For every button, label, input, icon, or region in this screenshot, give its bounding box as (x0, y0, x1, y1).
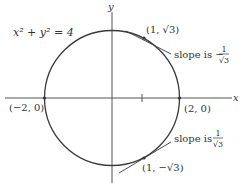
slope-bottom-text: slope is (174, 133, 212, 144)
slope-top-text: slope is − (174, 49, 224, 60)
slope-bottom-num: 1 (215, 129, 220, 138)
point-label-bottom: (1, −√3) (142, 162, 184, 173)
point-bottom (142, 156, 145, 159)
x-axis-label: x (233, 92, 239, 103)
point-label-top: (1, √3) (146, 24, 179, 35)
point-label-left: (−2, 0) (9, 102, 44, 113)
y-axis-label: y (107, 1, 114, 12)
slope-bottom-den: √3 (213, 140, 223, 149)
point-top (142, 36, 145, 39)
point-right (178, 96, 181, 99)
slope-top-den: √3 (219, 56, 229, 65)
point-left (43, 96, 46, 99)
point-label-right: (2, 0) (184, 103, 211, 114)
equation-label: x² + y² = 4 (13, 26, 74, 39)
circle-diagram: x² + y² = 4 y x (1, √3) (1, −√3) (−2, 0)… (0, 0, 243, 183)
slope-top-num: 1 (221, 45, 226, 54)
